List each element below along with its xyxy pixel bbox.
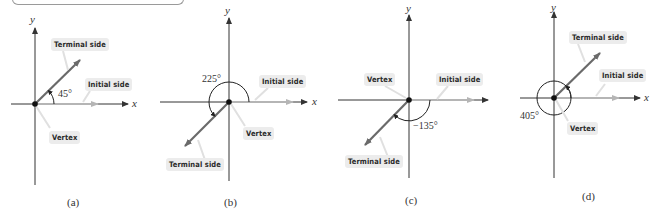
initial-leader bbox=[437, 86, 448, 99]
terminal-leader bbox=[63, 51, 68, 70]
x-axis-label: x bbox=[132, 98, 137, 109]
terminal-side-label: Terminal side bbox=[166, 158, 224, 171]
vertex-leader bbox=[231, 104, 245, 126]
vertex-leader bbox=[385, 86, 406, 98]
vertex-label: Vertex bbox=[243, 127, 274, 140]
angle-measure: 405° bbox=[520, 110, 539, 121]
initial-leader bbox=[596, 84, 605, 96]
x-axis-label: x bbox=[312, 96, 317, 107]
y-axis-label: y bbox=[225, 5, 230, 16]
vertex-dot bbox=[551, 95, 557, 101]
vertex-dot bbox=[32, 101, 38, 107]
terminal-side-ray bbox=[185, 102, 229, 146]
caption-c: (c) bbox=[405, 194, 417, 206]
terminal-leader bbox=[380, 137, 388, 157]
caption-d: (d) bbox=[582, 190, 595, 202]
vertex-label: Vertex bbox=[567, 122, 598, 135]
y-axis-label: y bbox=[406, 3, 411, 14]
diagram-canvas bbox=[0, 0, 654, 217]
angle-arc bbox=[566, 86, 571, 98]
initial-leader bbox=[83, 91, 90, 102]
x-axis-label: x bbox=[644, 92, 649, 103]
initial-side-label: Initial side bbox=[85, 78, 132, 91]
terminal-leader bbox=[198, 140, 205, 160]
initial-side-label: Initial side bbox=[436, 73, 483, 86]
panel-c bbox=[338, 15, 488, 178]
vertex-dot bbox=[406, 97, 412, 103]
terminal-side-label: Terminal side bbox=[51, 38, 109, 51]
angle-measure: 45° bbox=[58, 88, 72, 99]
initial-side-label: Initial side bbox=[259, 75, 306, 88]
panel-b bbox=[160, 18, 307, 181]
terminal-side-label: Terminal side bbox=[345, 155, 403, 168]
initial-leader bbox=[255, 88, 268, 100]
panel-a bbox=[11, 28, 128, 185]
y-axis-label: y bbox=[551, 2, 556, 13]
angle-diagrams: y x Terminal side Initial side Vertex 45… bbox=[0, 0, 654, 217]
terminal-leader bbox=[578, 44, 585, 62]
vertex-label: Vertex bbox=[49, 131, 80, 144]
caption-b: (b) bbox=[224, 196, 237, 208]
angle-measure: 225° bbox=[202, 73, 221, 84]
terminal-side-label: Terminal side bbox=[569, 31, 627, 44]
terminal-side-ray bbox=[554, 53, 600, 98]
vertex-leader bbox=[36, 106, 50, 128]
vertex-label: Vertex bbox=[364, 73, 395, 86]
y-axis-label: y bbox=[30, 14, 35, 25]
initial-side-label: Initial side bbox=[599, 69, 646, 82]
terminal-side-ray bbox=[365, 100, 409, 145]
vertex-dot bbox=[226, 99, 232, 105]
caption-a: (a) bbox=[67, 196, 79, 208]
angle-arc bbox=[48, 91, 54, 104]
angle-measure: −135° bbox=[413, 120, 438, 131]
